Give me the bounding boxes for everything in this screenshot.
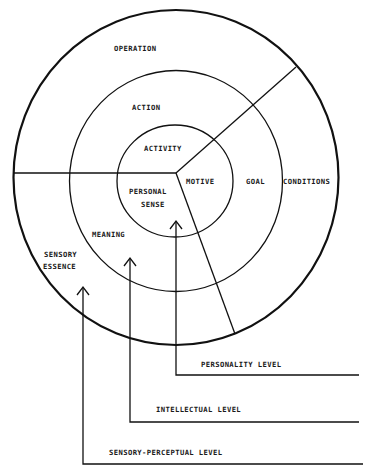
intellectual-level-connector bbox=[130, 259, 359, 422]
label-action: ACTION bbox=[132, 103, 160, 112]
label-intellectual-level: INTELLECTUAL LEVEL bbox=[156, 405, 241, 414]
label-sense: SENSE bbox=[141, 200, 165, 209]
label-meaning: MEANING bbox=[92, 230, 125, 239]
divider-upper-right bbox=[176, 67, 296, 173]
label-activity: ACTIVITY bbox=[144, 144, 182, 153]
label-goal: GOAL bbox=[246, 177, 265, 186]
label-sensory-perceptual-level: SENSORY-PERCEPTUAL LEVEL bbox=[109, 448, 223, 457]
divider-lower bbox=[176, 173, 235, 334]
label-motive: MOTIVE bbox=[186, 177, 214, 186]
activity-structure-diagram: OPERATION ACTION ACTIVITY MOTIVE GOAL CO… bbox=[0, 0, 369, 475]
sensory-perceptual-level-connector bbox=[83, 288, 363, 464]
label-operation: OPERATION bbox=[114, 44, 157, 53]
label-sensory: SENSORY bbox=[44, 250, 77, 259]
label-personal: PERSONAL bbox=[129, 187, 167, 196]
label-essence: ESSENCE bbox=[43, 262, 76, 271]
label-personality-level: PERSONALITY LEVEL bbox=[201, 360, 282, 369]
inner-ring-activity bbox=[117, 125, 233, 237]
label-conditions: CONDITIONS bbox=[283, 177, 330, 186]
personality-level-connector bbox=[176, 222, 359, 375]
